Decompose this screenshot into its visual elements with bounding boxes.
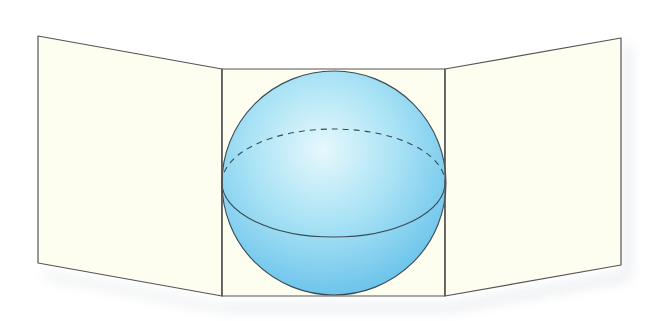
sphere-in-cylinder-diagram bbox=[0, 0, 650, 321]
sphere bbox=[222, 71, 446, 295]
left-panel bbox=[38, 36, 222, 296]
figure-canvas bbox=[0, 0, 650, 321]
right-panel bbox=[445, 38, 621, 296]
